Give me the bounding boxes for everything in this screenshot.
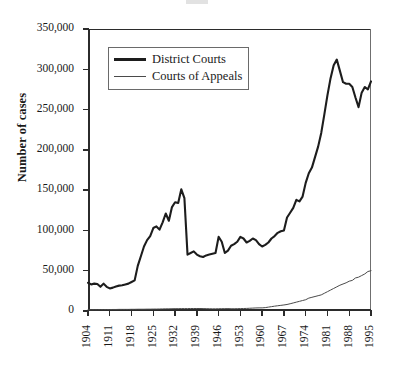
x-tick-label: 1939 <box>190 325 202 348</box>
y-tick-label: 100,000 <box>37 224 74 236</box>
legend-item-courts-of-appeals: Courts of Appeals <box>114 68 242 85</box>
y-tick-label: 300,000 <box>37 63 74 75</box>
y-tick-label: 50,000 <box>42 264 74 276</box>
x-tick-label: 1953 <box>234 325 246 348</box>
x-tick-label: 1974 <box>299 325 311 348</box>
y-tick-label: 0 <box>68 305 74 317</box>
line-district-courts <box>88 60 371 289</box>
x-tick-label: 1988 <box>343 325 355 348</box>
x-tick-label: 1904 <box>82 325 94 348</box>
x-tick-label: 1946 <box>212 325 224 348</box>
legend-swatch-district-courts <box>114 58 146 61</box>
legend-label-district-courts: District Courts <box>152 53 226 66</box>
y-tick-label: 150,000 <box>37 184 74 196</box>
x-tick-label: 1932 <box>169 325 181 348</box>
x-tick-label: 1925 <box>147 325 159 348</box>
legend-label-courts-of-appeals: Courts of Appeals <box>152 70 242 83</box>
line-courts-of-appeals <box>88 271 371 310</box>
x-tick-label: 1918 <box>125 325 137 348</box>
x-tick-label: 1995 <box>365 325 377 348</box>
chart-legend: District Courts Courts of Appeals <box>108 47 249 90</box>
page-number-artifact <box>186 0 208 4</box>
x-tick-label: 1911 <box>103 325 115 348</box>
y-tick-label: 200,000 <box>37 143 74 155</box>
legend-swatch-courts-of-appeals <box>114 76 146 77</box>
x-tick-label: 1960 <box>256 325 268 348</box>
legend-item-district-courts: District Courts <box>114 51 242 68</box>
y-tick-label: 250,000 <box>37 103 74 115</box>
x-tick-label: 1981 <box>321 325 333 348</box>
y-tick-label: 350,000 <box>37 23 74 35</box>
y-axis-title: Number of cases <box>15 73 30 203</box>
x-tick-label: 1967 <box>277 325 289 348</box>
chart-page: Number of cases 050,000100,000150,000200… <box>0 0 396 365</box>
